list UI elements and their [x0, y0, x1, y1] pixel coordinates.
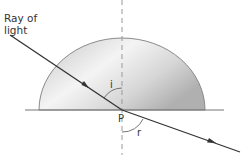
ray-label-line2: light — [4, 24, 27, 36]
incidence-angle-label: i — [110, 79, 113, 90]
refracted-arrow-icon — [207, 138, 216, 143]
ray-label-line1: Ray of — [4, 12, 37, 24]
point-label: P — [118, 113, 124, 124]
refraction-angle-label: r — [137, 127, 142, 138]
refraction-diagram: Ray of light P i r — [0, 0, 244, 155]
